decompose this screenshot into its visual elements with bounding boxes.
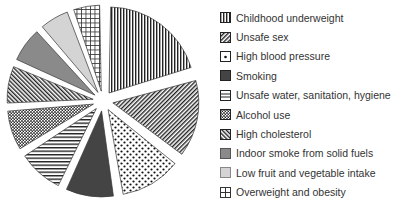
legend-item-unsafe-sex: Unsafe sex: [220, 27, 391, 46]
legend: Childhood underweight Unsafe sex High bl…: [220, 8, 391, 202]
back-diagonal-lines-swatch-icon: [220, 129, 231, 140]
legend-item-indoor-smoke: Indoor smoke from solid fuels: [220, 144, 391, 163]
solid-light-gray-swatch-icon: [220, 167, 231, 178]
pie-chart: [0, 0, 206, 206]
legend-label: Alcohol use: [236, 109, 290, 121]
legend-item-high-blood-pressure: High blood pressure: [220, 47, 391, 66]
legend-label: Overweight and obesity: [236, 186, 346, 198]
pie-slice-childhood-underweight: [109, 7, 191, 93]
legend-label: Unsafe water, sanitation, hygiene: [236, 89, 391, 101]
legend-label: High blood pressure: [236, 50, 330, 62]
legend-item-childhood-underweight: Childhood underweight: [220, 8, 391, 27]
horizontal-lines-swatch-icon: [220, 90, 231, 101]
legend-item-unsafe-water: Unsafe water, sanitation, hygiene: [220, 86, 391, 105]
pie-slices: [7, 5, 199, 197]
dots-swatch-icon: [220, 51, 231, 62]
legend-label: Smoking: [236, 70, 277, 82]
legend-label: Unsafe sex: [236, 31, 289, 43]
legend-item-smoking: Smoking: [220, 66, 391, 85]
diagonal-lines-swatch-icon: [220, 32, 231, 43]
legend-item-overweight-obesity: Overweight and obesity: [220, 183, 391, 202]
legend-label: Low fruit and vegetable intake: [236, 167, 376, 179]
checker-dots-swatch-icon: [220, 109, 231, 120]
vertical-lines-swatch-icon: [220, 12, 231, 23]
grid-swatch-icon: [220, 187, 231, 198]
legend-label: Indoor smoke from solid fuels: [236, 147, 373, 159]
solid-mid-gray-swatch-icon: [220, 148, 231, 159]
legend-label: Childhood underweight: [236, 12, 343, 24]
legend-item-high-cholesterol: High cholesterol: [220, 124, 391, 143]
legend-item-low-fruit-vegetable: Low fruit and vegetable intake: [220, 163, 391, 182]
solid-dark-swatch-icon: [220, 70, 231, 81]
legend-item-alcohol-use: Alcohol use: [220, 105, 391, 124]
legend-label: High cholesterol: [236, 128, 311, 140]
